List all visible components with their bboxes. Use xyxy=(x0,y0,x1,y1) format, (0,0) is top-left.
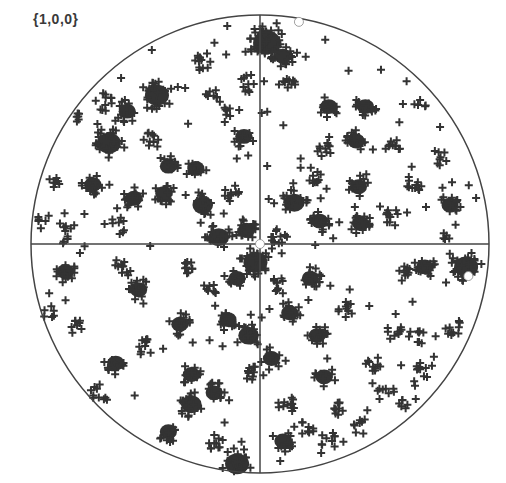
pole-marker xyxy=(188,265,196,273)
pole-marker xyxy=(143,104,151,112)
pole-marker xyxy=(221,419,229,427)
pole-marker xyxy=(238,438,246,446)
highlight-marker xyxy=(256,240,265,249)
pole-marker xyxy=(408,163,416,171)
highlight-marker xyxy=(464,272,473,281)
pole-marker xyxy=(147,349,155,357)
pole-marker xyxy=(105,153,113,161)
pole-marker xyxy=(323,113,331,121)
pole-marker xyxy=(326,282,334,290)
pole-marker xyxy=(477,260,485,268)
pole-marker xyxy=(222,50,230,58)
pole-marker xyxy=(260,77,268,85)
pole-marker xyxy=(325,133,333,141)
pole-marker xyxy=(117,74,125,82)
pole-marker xyxy=(263,162,271,170)
pole-marker xyxy=(442,278,450,286)
pole-marker xyxy=(80,210,88,218)
pole-marker xyxy=(448,178,456,186)
pole-marker xyxy=(376,203,384,211)
pole-marker xyxy=(68,329,76,337)
pole-marker xyxy=(326,149,334,157)
highlight-marker xyxy=(294,17,303,26)
pole-marker xyxy=(76,249,84,257)
pole-marker xyxy=(197,219,205,227)
pole-marker xyxy=(465,181,473,189)
pole-marker xyxy=(206,336,214,344)
pole-marker xyxy=(345,67,353,75)
pole-marker xyxy=(405,333,413,341)
pole-marker xyxy=(311,241,319,249)
pole-marker xyxy=(210,39,218,47)
pole-marker xyxy=(233,155,241,163)
pole-marker xyxy=(403,209,411,217)
pole-marker xyxy=(112,256,120,264)
pole-marker xyxy=(406,328,414,336)
pole-marker xyxy=(219,342,227,350)
pole-marker xyxy=(317,449,325,457)
pole-marker xyxy=(454,330,462,338)
pole-marker xyxy=(329,234,337,242)
pole-marker xyxy=(297,164,305,172)
pole-marker xyxy=(318,441,326,449)
pole-marker xyxy=(384,328,392,336)
pole-marker xyxy=(184,120,192,128)
pole-marker xyxy=(307,164,315,172)
pole-marker xyxy=(37,224,45,232)
pole-marker xyxy=(240,445,248,453)
pole-marker xyxy=(225,396,233,404)
pole-marker xyxy=(299,418,307,426)
pole-marker xyxy=(140,136,148,144)
pole-marker xyxy=(336,399,344,407)
pole-marker xyxy=(239,216,247,224)
pole-marker xyxy=(399,100,407,108)
pole-marker xyxy=(393,136,401,144)
pole-marker xyxy=(352,428,360,436)
pole-marker xyxy=(265,305,273,313)
pole-marker xyxy=(139,300,147,308)
pole-marker xyxy=(223,22,231,30)
pole-marker xyxy=(174,331,182,339)
pole-marker xyxy=(422,101,430,109)
pole-marker xyxy=(61,209,69,217)
pole-marker xyxy=(265,195,273,203)
pole-marker xyxy=(273,19,281,27)
pole-marker xyxy=(148,46,156,54)
pole-marker xyxy=(339,438,347,446)
pole-marker xyxy=(376,395,384,403)
pole-marker xyxy=(472,194,480,202)
pole-marker xyxy=(258,109,266,117)
pole-marker xyxy=(276,457,284,465)
pole-marker xyxy=(335,218,343,226)
pole-marker xyxy=(412,395,420,403)
pole-marker xyxy=(159,345,167,353)
pole-marker xyxy=(270,199,278,207)
pole-marker xyxy=(105,181,113,189)
pole-marker xyxy=(397,361,405,369)
pole-marker xyxy=(236,254,244,262)
pole-marker xyxy=(323,185,331,193)
pole-marker xyxy=(304,296,312,304)
pole-marker xyxy=(247,71,255,79)
pole-marker xyxy=(369,146,377,154)
pole-marker xyxy=(290,423,298,431)
pole-marker xyxy=(258,314,266,322)
pole-marker xyxy=(438,184,446,192)
pole-marker xyxy=(317,194,325,202)
pole-marker xyxy=(189,338,197,346)
pole-marker xyxy=(279,121,287,129)
pole-marker xyxy=(394,210,402,218)
pole-marker xyxy=(432,332,440,340)
pole-marker xyxy=(351,203,359,211)
pole-marker xyxy=(203,50,211,58)
pole-marker xyxy=(92,97,100,105)
pole-marker xyxy=(365,302,373,310)
pole-marker xyxy=(440,148,448,156)
pole-marker xyxy=(430,353,438,361)
pole-marker xyxy=(220,210,228,218)
pole-marker xyxy=(363,406,371,414)
pole-marker xyxy=(422,203,430,211)
pole-marker xyxy=(235,106,243,114)
pole-marker xyxy=(278,249,286,257)
pole-marker xyxy=(403,182,411,190)
